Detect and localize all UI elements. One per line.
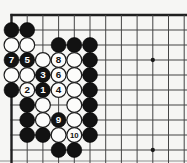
stone-black [4,23,19,38]
move-number: 4 [56,84,62,95]
stone-white [35,53,50,68]
move-number: 7 [9,54,15,65]
stone-white [4,68,19,83]
stone-black [83,83,98,98]
stone-white [20,38,35,53]
move-number: 2 [24,84,30,95]
stone-white [67,83,82,98]
stone-white [67,53,82,68]
stone-black [20,128,35,143]
stone-white [4,38,19,53]
move-number: 5 [24,54,30,65]
stone-white [51,128,66,143]
move-number: 6 [56,69,62,80]
stone-white [35,98,50,113]
stone-black [51,143,66,158]
stone-black [83,113,98,128]
stone-white [67,113,82,128]
stone-white [35,113,50,128]
stone-black [67,38,82,53]
move-number: 9 [56,114,62,125]
move-number: 3 [40,69,46,80]
stone-black [20,23,35,38]
stone-black [83,68,98,83]
stone-white [67,68,82,83]
stone-black [35,128,50,143]
move-number: 8 [56,54,62,65]
stone-black [20,98,35,113]
stone-black [51,38,66,53]
star-point [151,58,155,62]
stone-black [83,98,98,113]
go-board: 75836214910 [0,0,187,163]
stone-black [67,143,82,158]
move-number: 10 [70,131,79,140]
stone-white [20,68,35,83]
move-number: 1 [40,84,46,95]
stone-black [20,113,35,128]
stone-black [83,128,98,143]
stone-black [83,53,98,68]
stone-black [83,38,98,53]
stone-white [67,98,82,113]
stone-black [4,83,19,98]
star-point [151,148,155,152]
go-problem-diagram: 75836214910 [0,0,187,163]
